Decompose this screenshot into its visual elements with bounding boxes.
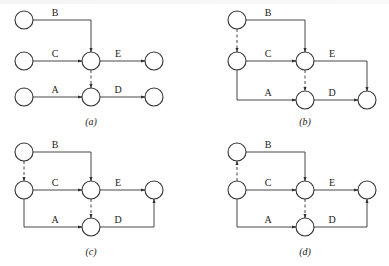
activity-label: E <box>115 48 121 59</box>
activity-arrow-d <box>314 199 367 227</box>
event-node <box>145 52 163 70</box>
activity-label: C <box>265 177 272 188</box>
event-node <box>145 181 163 199</box>
panel-caption: (b) <box>299 116 311 128</box>
activity-label: D <box>328 214 335 225</box>
activity-label: A <box>264 214 272 225</box>
event-node <box>82 88 100 106</box>
panel-caption: (a) <box>85 116 97 128</box>
event-node <box>228 52 246 70</box>
event-node <box>15 181 33 199</box>
event-node <box>145 88 163 106</box>
event-node <box>228 181 246 199</box>
event-node <box>296 218 314 236</box>
activity-label: C <box>52 177 59 188</box>
activity-arrow-b <box>33 152 91 181</box>
network-diagram-figure: BCEAD(a) BCEAD(b) BCEAD(c) BCEAD(d) <box>0 0 389 266</box>
event-node <box>228 11 246 29</box>
event-node <box>15 88 33 106</box>
panel-d: BCEAD(d) <box>228 139 376 258</box>
activity-label: D <box>114 84 121 95</box>
event-node <box>82 52 100 70</box>
activity-label: A <box>264 87 272 98</box>
event-node <box>15 143 33 161</box>
activity-label: C <box>52 48 59 59</box>
event-node <box>296 91 314 109</box>
activity-label: E <box>329 177 335 188</box>
panel-caption: (c) <box>85 246 97 258</box>
activity-label: E <box>115 177 121 188</box>
activity-label: B <box>265 7 272 18</box>
activity-arrow-b <box>246 152 305 181</box>
panel-a: BCEAD(a) <box>15 7 163 128</box>
activity-arrow-d <box>100 199 154 227</box>
activity-label: B <box>52 139 59 150</box>
panel-caption: (d) <box>299 246 311 258</box>
activity-arrow-b <box>33 20 91 52</box>
event-node <box>15 11 33 29</box>
event-node <box>296 181 314 199</box>
activity-arrow-e <box>314 61 367 91</box>
event-node <box>358 91 376 109</box>
activity-label: D <box>328 87 335 98</box>
event-node <box>82 181 100 199</box>
activity-label: A <box>51 84 59 95</box>
event-node <box>228 143 246 161</box>
activity-label: E <box>329 48 335 59</box>
activity-label: A <box>51 214 59 225</box>
activity-label: C <box>265 48 272 59</box>
panel-b: BCEAD(b) <box>228 7 376 128</box>
event-node <box>82 218 100 236</box>
activity-arrow-b <box>246 20 305 52</box>
event-node <box>296 52 314 70</box>
activity-label: B <box>52 7 59 18</box>
activity-label: D <box>114 214 121 225</box>
activity-label: B <box>265 139 272 150</box>
event-node <box>358 181 376 199</box>
panel-c: BCEAD(c) <box>15 139 163 258</box>
event-node <box>15 52 33 70</box>
